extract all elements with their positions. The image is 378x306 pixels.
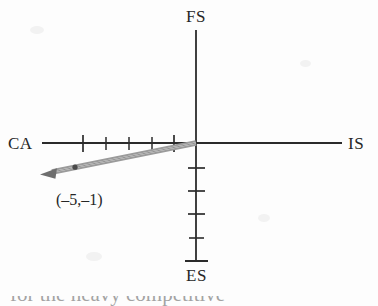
data-point-marker xyxy=(72,165,77,170)
vector-arrowhead xyxy=(40,168,57,179)
data-point-coordinate-label: (–5,–1) xyxy=(56,192,103,208)
axis-label-ca: CA xyxy=(8,135,33,152)
axis-label-fs: FS xyxy=(186,8,206,25)
axes-and-vector-plot xyxy=(0,0,378,306)
axis-label-is: IS xyxy=(348,135,364,152)
clipped-caption-strip: for the heavy competitive xyxy=(0,296,378,306)
axis-label-es: ES xyxy=(186,267,207,284)
space-matrix-figure: FS IS CA ES (–5,–1) for the heavy compet… xyxy=(0,0,378,306)
clipped-caption-text: for the heavy competitive xyxy=(10,296,225,306)
